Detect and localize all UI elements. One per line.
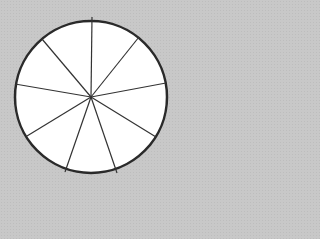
- divided-circle-diagram: [0, 0, 183, 188]
